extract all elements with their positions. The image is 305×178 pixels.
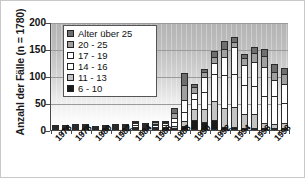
bar-stack[interactable] xyxy=(261,50,268,130)
bar-segment xyxy=(201,92,208,111)
chart-figure: Anzahl der Fälle (n = 1780) 050100150200… xyxy=(0,0,305,178)
legend-item[interactable]: 6 - 10 xyxy=(67,83,153,94)
bar-segment xyxy=(231,47,238,75)
bar-segment xyxy=(221,75,228,110)
bar-segment xyxy=(201,109,208,123)
bar-segment xyxy=(211,74,218,102)
legend-item-label: 14 - 16 xyxy=(78,62,108,72)
legend-swatch-icon xyxy=(67,74,74,81)
y-axis-tick-label: 200 xyxy=(20,18,46,28)
bar-segment xyxy=(211,101,218,121)
bar-segment xyxy=(181,100,188,114)
bar-segment xyxy=(271,96,278,125)
y-axis-tick-label: 50 xyxy=(20,99,46,109)
y-axis-tick xyxy=(45,104,50,105)
bar-segment xyxy=(251,62,258,87)
bar-segment xyxy=(191,120,198,130)
bar-stack[interactable] xyxy=(201,70,208,130)
x-axis-tick xyxy=(51,130,52,134)
bar-segment xyxy=(261,96,268,124)
bar-stack[interactable] xyxy=(241,55,248,130)
bar-stack[interactable] xyxy=(221,42,228,130)
bar-stack[interactable] xyxy=(231,38,238,130)
bar-stack[interactable] xyxy=(281,69,288,130)
legend-item-label: 17 - 19 xyxy=(78,51,108,61)
legend-swatch-icon xyxy=(67,63,74,70)
y-axis-tick-label: 100 xyxy=(20,72,46,82)
chart-legend: Alter über 2520 - 2517 - 1914 - 1611 - 1… xyxy=(63,25,157,97)
bar-segment xyxy=(241,85,248,115)
y-axis-tick xyxy=(45,77,50,78)
bar-segment xyxy=(281,103,288,124)
y-axis-tick-label: 0 xyxy=(20,126,46,136)
legend-item[interactable]: 17 - 19 xyxy=(67,50,153,61)
legend-item-label: Alter über 25 xyxy=(78,29,132,39)
bar-stack[interactable] xyxy=(191,85,198,130)
y-axis-tick xyxy=(45,23,50,24)
legend-swatch-icon xyxy=(67,85,74,92)
legend-item-label: 11 - 13 xyxy=(78,73,107,83)
bar-segment xyxy=(201,77,208,93)
bar-segment xyxy=(181,85,188,100)
bar-segment xyxy=(251,86,258,115)
y-axis-tick xyxy=(45,131,50,132)
bar-segment xyxy=(221,57,228,76)
y-axis-tick xyxy=(45,50,50,51)
legend-swatch-icon xyxy=(67,30,74,37)
bar-stack[interactable] xyxy=(271,65,278,130)
bar-stack[interactable] xyxy=(171,109,178,130)
legend-item[interactable]: Alter über 25 xyxy=(67,28,153,39)
bar-segment xyxy=(281,84,288,104)
bar-segment xyxy=(241,65,248,87)
bar-segment xyxy=(261,67,268,97)
bar-segment xyxy=(231,74,238,108)
bar-segment xyxy=(271,80,278,97)
legend-swatch-icon xyxy=(67,52,74,59)
legend-item[interactable]: 14 - 16 xyxy=(67,61,153,72)
legend-swatch-icon xyxy=(67,41,74,48)
legend-item[interactable]: 11 - 13 xyxy=(67,72,153,83)
legend-item-label: 6 - 10 xyxy=(78,84,102,94)
y-axis-tick-label: 150 xyxy=(20,45,46,55)
bar-stack[interactable] xyxy=(251,48,258,130)
legend-item[interactable]: 20 - 25 xyxy=(67,39,153,50)
bar-segment xyxy=(231,107,238,128)
bar-segment xyxy=(251,114,258,129)
legend-item-label: 20 - 25 xyxy=(78,40,108,50)
bar-stack[interactable] xyxy=(211,52,218,130)
